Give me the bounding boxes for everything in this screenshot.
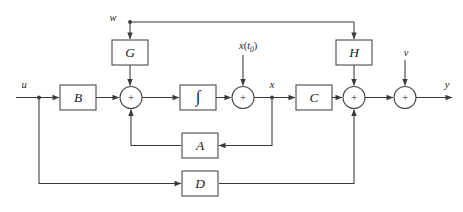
block-b: B bbox=[60, 85, 96, 110]
block-h: H bbox=[336, 40, 372, 65]
signal-label-y: y bbox=[444, 79, 450, 90]
block-d: D bbox=[182, 171, 218, 196]
x-t0-paren-close: ) bbox=[254, 40, 258, 52]
signal-label-x-t0: x(t0) bbox=[238, 40, 258, 53]
summing-junction-2-sign: + bbox=[240, 91, 246, 103]
signal-label-w: w bbox=[109, 12, 116, 23]
wire-d-to-sum3 bbox=[219, 110, 354, 184]
summing-junction-3: + bbox=[343, 87, 365, 109]
block-b-label: B bbox=[74, 90, 82, 105]
block-g-label: G bbox=[125, 45, 135, 60]
summing-junction-2: + bbox=[232, 87, 254, 109]
block-c: C bbox=[296, 85, 332, 110]
signal-label-u: u bbox=[21, 79, 26, 90]
block-diagram-canvas: G H B ∫ C A D bbox=[0, 0, 463, 212]
summing-junction-1-sign: + bbox=[128, 91, 134, 103]
summing-junction-1: + bbox=[120, 87, 142, 109]
summing-junction-4-sign: + bbox=[402, 91, 408, 103]
junction-dot-w-branch bbox=[128, 20, 132, 24]
summing-junction-3-sign: + bbox=[351, 91, 357, 103]
block-h-label: H bbox=[348, 45, 360, 60]
block-c-label: C bbox=[309, 90, 319, 105]
wire-a-to-sum1 bbox=[131, 110, 181, 146]
block-a-label: A bbox=[195, 138, 205, 153]
block-integrator: ∫ bbox=[180, 85, 216, 110]
signal-label-v: v bbox=[404, 47, 409, 58]
block-a: A bbox=[182, 133, 218, 158]
summing-junction-4: + bbox=[394, 87, 416, 109]
block-diagram-svg: G H B ∫ C A D bbox=[0, 0, 463, 212]
block-g: G bbox=[112, 40, 148, 65]
signal-label-x: x bbox=[269, 79, 275, 90]
block-d-label: D bbox=[194, 176, 205, 191]
